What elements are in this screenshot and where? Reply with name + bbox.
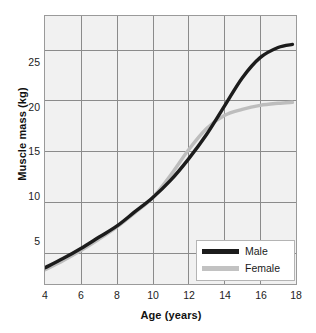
series-lines — [45, 44, 292, 269]
legend-label-male: Male — [245, 245, 268, 257]
chart-legend: Male Female — [196, 240, 295, 281]
x-tick-label: 6 — [69, 289, 93, 301]
series-line-male — [45, 44, 292, 267]
x-tick-label: 4 — [33, 289, 57, 301]
legend-swatch-female — [202, 266, 239, 271]
x-tick-label: 10 — [141, 289, 165, 301]
x-tick-label: 12 — [177, 289, 201, 301]
y-tick-label: 5 — [14, 236, 40, 246]
y-tick-label: 15 — [14, 146, 40, 156]
x-axis-title: Age (years) — [44, 309, 298, 321]
x-tick-label: 14 — [213, 289, 237, 301]
x-tick-label: 18 — [284, 289, 308, 301]
legend-swatch-male — [202, 249, 239, 254]
y-tick-label: 10 — [14, 191, 40, 201]
x-axis-tick-labels: 4 6 8 10 12 14 16 18 — [0, 289, 316, 305]
x-tick-label: 8 — [105, 289, 129, 301]
x-tick-label: 16 — [249, 289, 273, 301]
legend-entry-male: Male — [202, 244, 292, 260]
legend-label-female: Female — [245, 262, 280, 274]
legend-entry-female: Female — [202, 261, 292, 277]
y-axis-tick-labels: 25 20 15 10 5 — [8, 0, 40, 333]
muscle-mass-chart-figure: Muscle mass (kg) 25 20 15 10 5 4 6 8 10 … — [0, 0, 316, 333]
y-tick-label: 25 — [14, 57, 40, 67]
y-tick-label: 20 — [14, 102, 40, 112]
